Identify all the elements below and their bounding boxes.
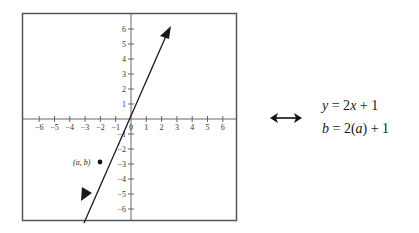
y-tick-label: 2 <box>122 85 126 94</box>
y-tick-label: −6 <box>117 205 126 214</box>
x-tick-label: 1 <box>144 123 148 132</box>
equivalence-double-arrow-icon <box>270 111 302 125</box>
eq2-mid: = 2( <box>329 121 356 136</box>
x-tick-label: −4 <box>66 123 75 132</box>
x-tick-label: 3 <box>175 123 179 132</box>
x-tick-label: 5 <box>206 123 210 132</box>
y-tick-label: −4 <box>117 175 126 184</box>
y-tick-label: −5 <box>117 190 126 199</box>
eq2-var: a <box>356 121 363 136</box>
y-tick-label: 5 <box>122 40 126 49</box>
point-a-b <box>98 160 103 165</box>
x-tick-label: −2 <box>96 123 105 132</box>
point-label: (a, b) <box>73 158 91 167</box>
x-tick-label: 2 <box>160 123 164 132</box>
eq2-lhs: b <box>322 121 329 136</box>
x-tick-label: 0 <box>129 123 133 132</box>
eq2-rhs: ) + 1 <box>363 121 390 136</box>
y-tick-label: 4 <box>122 55 126 64</box>
y-tick-label: 6 <box>122 25 126 34</box>
x-tick-label: 4 <box>190 123 194 132</box>
equation-line: y = 2x + 1 <box>322 98 378 114</box>
y-tick-label: 3 <box>122 70 126 79</box>
eq1-mid: = 2 <box>328 98 350 113</box>
equation-point: b = 2(a) + 1 <box>322 121 389 137</box>
eq1-rhs: + 1 <box>356 98 378 113</box>
y-tick-label: −2 <box>117 145 126 154</box>
coordinate-graph: −6−5−4−3−2−10123456 123456−1−2−3−4−5−6 (… <box>0 0 240 233</box>
x-tick-label: −3 <box>81 123 90 132</box>
x-tick-label: −6 <box>35 123 44 132</box>
y-tick-label: −3 <box>117 160 126 169</box>
y-tick-label: 1 <box>122 100 126 109</box>
x-tick-label: −5 <box>50 123 59 132</box>
x-tick-label: 6 <box>221 123 225 132</box>
